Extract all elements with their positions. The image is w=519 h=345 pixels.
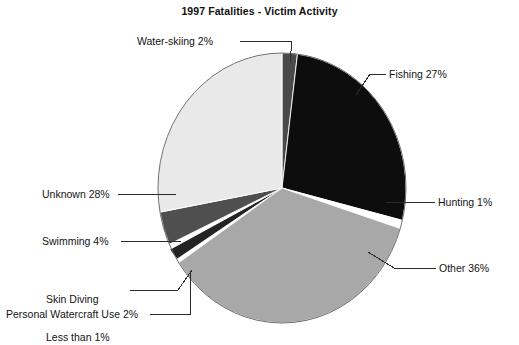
pie-label-swimming: Swimming 4%: [42, 235, 109, 248]
pie-label-fishing: Fishing 27%: [389, 68, 447, 81]
leader-line-skin-diving: [130, 270, 192, 290]
pie-label-other: Other 36%: [439, 262, 489, 275]
pie-label-hunting: Hunting 1%: [438, 196, 492, 209]
pie-label-personal-watercraft: Personal Watercraft Use 2%: [6, 308, 138, 321]
pie-label-skin-diving: Skin Diving Less than 1%: [46, 268, 110, 345]
pie-label-water-skiing: Water-skiing 2%: [137, 35, 213, 48]
leader-line-personal-watercraft: [150, 272, 190, 314]
pie-chart-figure: 1997 Fatalities - Victim Activity: [0, 0, 519, 345]
pie-label-unknown: Unknown 28%: [42, 188, 110, 201]
pie-label-skin-diving-line1: Skin Diving: [46, 293, 110, 306]
pie-slice-unknown[interactable]: [158, 53, 282, 212]
pie-label-skin-diving-line2: Less than 1%: [46, 331, 110, 344]
pie-slices: [158, 53, 406, 323]
